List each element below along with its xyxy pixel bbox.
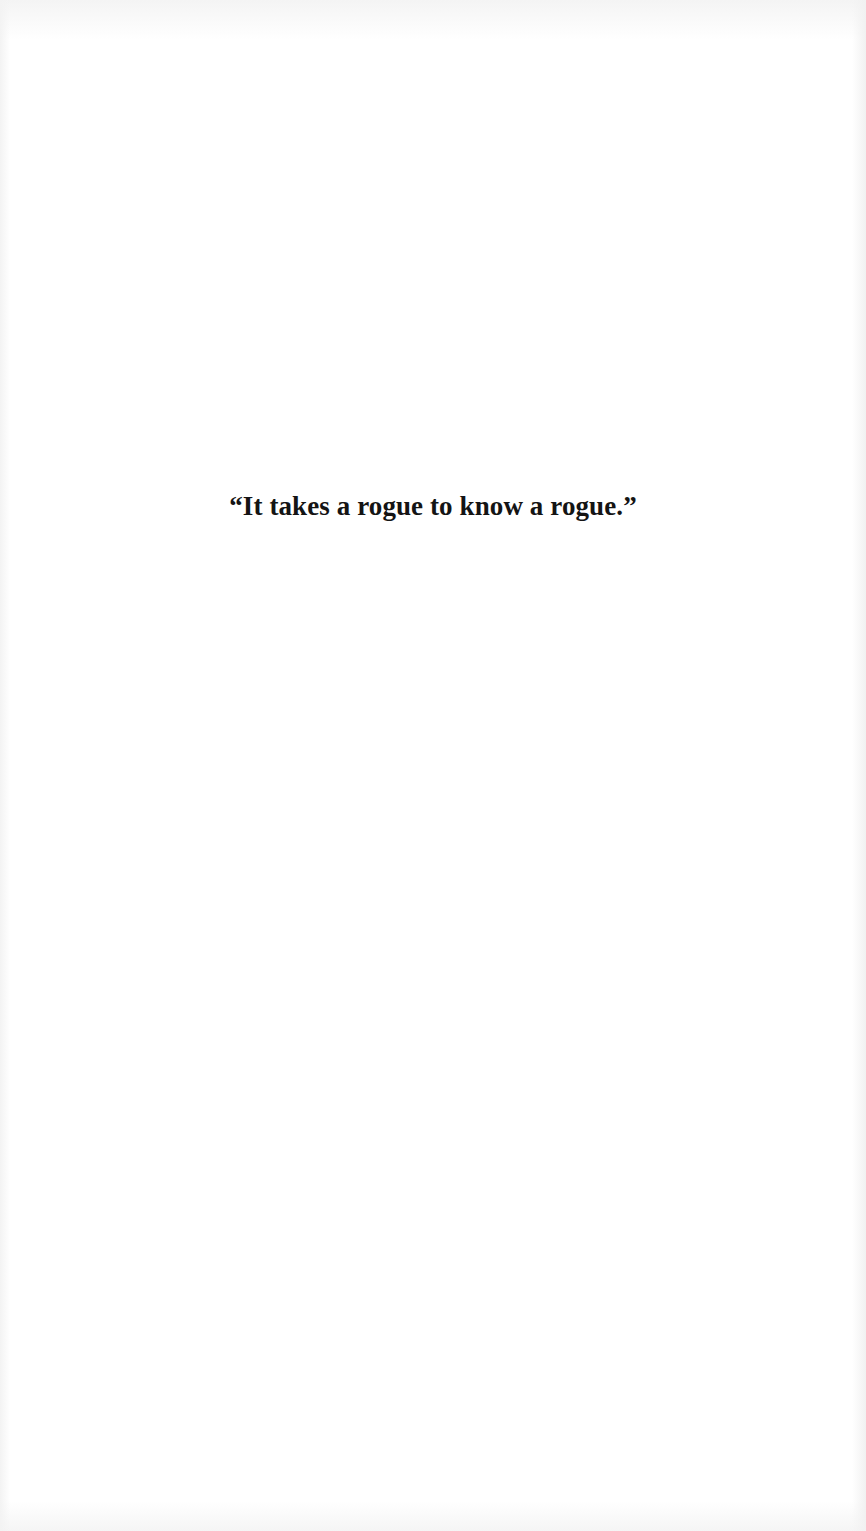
epigraph-quote: “It takes a rogue to know a rogue.” [0,486,866,526]
book-page: “It takes a rogue to know a rogue.” [0,0,866,1531]
scan-shading-right [852,0,866,1531]
scan-shading-left [0,0,10,1531]
scan-shading-bottom [0,1501,866,1531]
scan-shading-top [0,0,866,40]
